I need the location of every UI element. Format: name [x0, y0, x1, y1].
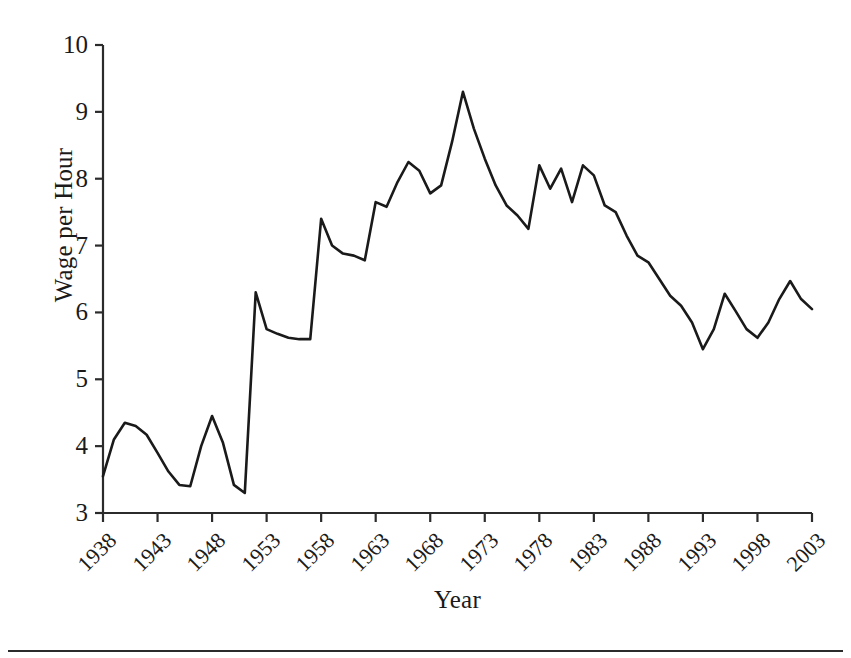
y-tick-label: 4	[30, 433, 88, 458]
y-tick-label: 3	[30, 500, 88, 525]
x-axis-title: Year	[103, 586, 812, 614]
y-axis-ticks	[95, 45, 103, 513]
y-tick-label: 8	[30, 166, 88, 191]
y-tick-label: 9	[30, 99, 88, 124]
y-tick-label: 6	[30, 299, 88, 324]
x-axis-ticks	[103, 513, 812, 522]
y-tick-label: 7	[30, 233, 88, 258]
bottom-horizontal-rule	[8, 650, 843, 652]
y-tick-label: 10	[30, 32, 88, 57]
figure-container: Wage per Hour Year 345678910 19381943194…	[0, 0, 851, 658]
data-series-line	[103, 92, 812, 493]
y-tick-label: 5	[30, 366, 88, 391]
